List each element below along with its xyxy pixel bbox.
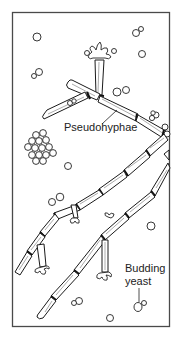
- label-budding-yeast-group: Budding yeast: [125, 262, 165, 312]
- label-budding-line2: yeast: [125, 275, 151, 287]
- yeast-cluster: [25, 130, 57, 165]
- cluster-cell: [40, 158, 47, 165]
- budding-yeast-bud: [142, 301, 147, 306]
- cluster-cell: [46, 144, 53, 151]
- yeast-cell: [139, 27, 144, 32]
- cluster-cell: [32, 145, 39, 152]
- yeast-cell: [133, 30, 140, 37]
- cluster-cell: [36, 138, 43, 145]
- yeast-cell: [65, 163, 72, 170]
- hypha-c: [164, 150, 169, 160]
- yeast-cell: [32, 74, 37, 79]
- cluster-cell: [29, 152, 36, 159]
- cluster-cell: [25, 144, 32, 151]
- yeast-cell: [36, 69, 43, 76]
- cluster-cell: [33, 158, 40, 165]
- yeast-cell: [33, 33, 41, 41]
- pseudohyphae-diagram: Pseudohyphae Budding yeast: [0, 0, 182, 344]
- yeast-cell: [107, 315, 114, 322]
- cluster-cell: [50, 150, 57, 157]
- cluster-cell: [43, 137, 50, 144]
- left-upper-branch: [43, 80, 101, 119]
- cluster-cell: [29, 138, 36, 145]
- yeast-cell: [139, 51, 146, 58]
- label-budding-line1: Budding: [125, 262, 165, 274]
- yeast-cell: [113, 88, 121, 96]
- yeast-cell: [72, 301, 77, 306]
- label-pseudohyphae: Pseudohyphae: [64, 121, 137, 133]
- cluster-cell: [39, 145, 46, 152]
- budding-yeast-cell: [134, 303, 142, 312]
- yeast-cell: [123, 87, 130, 94]
- upper-branch: [85, 42, 117, 96]
- cluster-cell: [40, 130, 47, 137]
- yeast-cell: [147, 222, 155, 230]
